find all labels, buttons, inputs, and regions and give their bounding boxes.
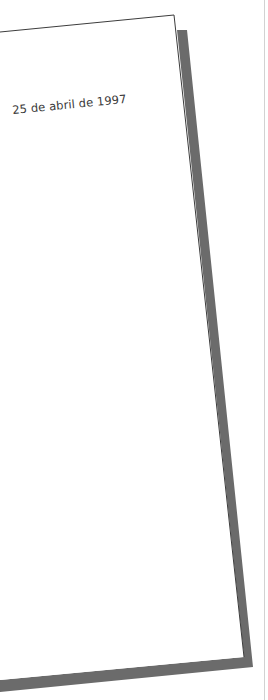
right-edge-divider: [264, 0, 265, 700]
page-sheet: [0, 15, 244, 680]
document-illustration: 25 de abril de 1997: [0, 0, 268, 700]
